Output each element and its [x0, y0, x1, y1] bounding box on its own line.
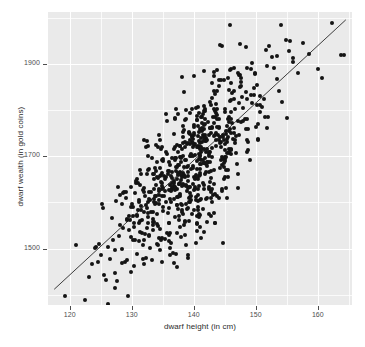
- data-point: [212, 168, 216, 172]
- x-axis-title: dwarf height (in cm): [48, 322, 352, 331]
- data-point: [189, 198, 193, 202]
- data-point: [184, 243, 188, 247]
- data-point: [210, 96, 214, 100]
- data-point: [217, 117, 221, 121]
- data-point: [214, 102, 218, 106]
- data-point: [239, 80, 243, 84]
- data-point: [151, 228, 155, 232]
- data-point: [205, 164, 209, 168]
- data-point: [199, 162, 203, 166]
- data-point: [285, 116, 289, 120]
- data-point: [137, 239, 141, 243]
- data-point: [182, 165, 186, 169]
- y-tick-mark: [43, 249, 47, 250]
- data-point: [174, 165, 178, 169]
- data-point: [252, 86, 256, 90]
- data-point: [116, 185, 120, 189]
- data-point: [266, 115, 270, 119]
- data-point: [196, 134, 200, 138]
- data-point: [110, 216, 114, 220]
- data-point: [225, 196, 229, 200]
- data-point: [265, 126, 269, 130]
- data-point: [272, 66, 276, 70]
- data-point: [232, 126, 236, 130]
- data-point: [191, 145, 195, 149]
- data-point: [190, 212, 194, 216]
- data-point: [254, 125, 258, 129]
- data-point: [162, 194, 166, 198]
- data-point: [158, 166, 162, 170]
- data-point: [183, 233, 187, 237]
- data-point: [194, 106, 198, 110]
- data-point: [342, 53, 346, 57]
- data-point: [224, 155, 228, 159]
- data-point: [301, 41, 305, 45]
- data-point: [207, 133, 211, 137]
- data-point: [111, 238, 115, 242]
- data-point: [287, 49, 291, 53]
- data-point: [232, 89, 236, 93]
- data-point: [316, 67, 320, 71]
- data-point: [156, 145, 160, 149]
- data-point: [219, 78, 223, 82]
- data-point: [102, 273, 106, 277]
- x-tick-mark: [132, 306, 133, 310]
- data-point: [160, 145, 164, 149]
- data-point: [172, 132, 176, 136]
- data-point: [252, 93, 256, 97]
- data-point: [126, 294, 130, 298]
- y-tick-label: 1900: [8, 59, 40, 66]
- data-point: [192, 208, 196, 212]
- data-point: [184, 158, 188, 162]
- data-point: [244, 90, 248, 94]
- data-point: [148, 246, 152, 250]
- data-point: [146, 200, 150, 204]
- data-point: [164, 200, 168, 204]
- data-point: [217, 126, 221, 130]
- data-point: [227, 115, 231, 119]
- data-point: [176, 173, 180, 177]
- data-point: [142, 186, 146, 190]
- data-point: [183, 145, 187, 149]
- data-point: [215, 68, 219, 72]
- data-point: [184, 117, 188, 121]
- data-point: [132, 264, 136, 268]
- data-point: [205, 196, 209, 200]
- data-point: [165, 152, 169, 156]
- data-point: [142, 210, 146, 214]
- data-point: [178, 144, 182, 148]
- data-point: [208, 126, 212, 130]
- data-point: [154, 201, 158, 205]
- data-point: [206, 120, 210, 124]
- data-point: [277, 89, 281, 93]
- data-point: [199, 236, 203, 240]
- data-point: [74, 243, 78, 247]
- data-point: [175, 265, 179, 269]
- data-point: [108, 257, 112, 261]
- data-point: [250, 61, 254, 65]
- data-point: [226, 76, 230, 80]
- data-point: [209, 196, 213, 200]
- data-point: [168, 246, 172, 250]
- data-point: [201, 207, 205, 211]
- data-point: [210, 200, 214, 204]
- data-point: [267, 44, 271, 48]
- data-point: [142, 262, 146, 266]
- data-point: [172, 147, 176, 151]
- data-point: [181, 135, 185, 139]
- data-point: [114, 199, 118, 203]
- data-point: [124, 190, 128, 194]
- data-point: [155, 212, 159, 216]
- data-point: [173, 186, 177, 190]
- data-point: [291, 56, 295, 60]
- data-point: [214, 144, 218, 148]
- data-point: [222, 161, 226, 165]
- data-point: [117, 234, 121, 238]
- data-point: [212, 134, 216, 138]
- data-point: [87, 275, 91, 279]
- data-point: [197, 184, 201, 188]
- data-point: [180, 75, 184, 79]
- data-point: [113, 286, 117, 290]
- data-point: [244, 45, 248, 49]
- data-point: [167, 233, 171, 237]
